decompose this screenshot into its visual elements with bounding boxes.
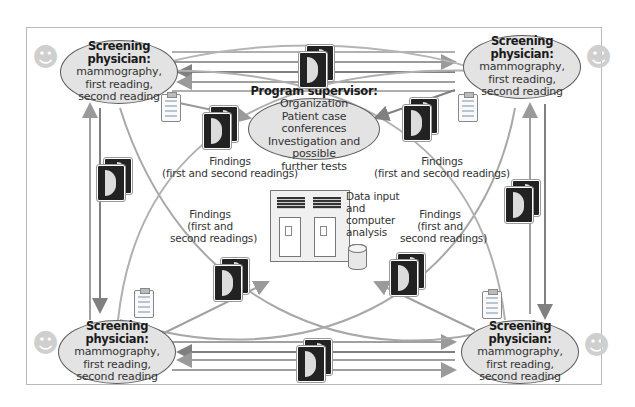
data-line: computer <box>346 214 399 226</box>
screening-physician-top-right: Screening physician: mammography, first … <box>463 35 581 99</box>
clipboard-icon <box>458 94 478 122</box>
findings-line: (first and second readings) <box>160 167 300 179</box>
physician-line: second reading <box>78 91 160 104</box>
supervisor-line: Organization <box>280 98 348 111</box>
woman-profile-icon: ☻ <box>32 328 56 358</box>
findings-label-upper-left: Findings (first and second readings) <box>160 155 300 179</box>
program-supervisor: Program supervisor: Organization Patient… <box>248 98 380 160</box>
mammogram-film-icon <box>299 52 329 90</box>
data-line: Data input <box>346 190 399 202</box>
physician-line: mammography, <box>76 66 161 79</box>
physician-line: mammography, <box>74 346 159 359</box>
supervisor-line: Patient case conferences <box>249 111 379 136</box>
screening-physician-bottom-right: Screening physician: mammography, first … <box>461 320 579 384</box>
data-line: and <box>346 202 399 214</box>
mammogram-film-icon <box>390 260 420 298</box>
mammogram-film-icon <box>214 265 244 303</box>
screening-physician-bottom-left: Screening physician: mammography, first … <box>58 320 176 384</box>
physician-title: Screening physician: <box>61 40 177 66</box>
findings-line: second readings) <box>400 232 480 244</box>
woman-profile-icon: ☻ <box>32 42 56 72</box>
mammogram-film-icon <box>505 187 535 225</box>
physician-line: second reading <box>76 371 158 384</box>
mammogram-film-icon <box>403 105 433 143</box>
physician-title: Screening physician: <box>464 35 580 61</box>
clipboard-icon <box>134 290 154 318</box>
findings-line: second readings) <box>170 232 250 244</box>
findings-line: Findings <box>160 155 300 167</box>
database-cylinder-icon <box>348 244 367 270</box>
findings-line: (first and second readings) <box>372 167 512 179</box>
physician-title: Screening physician: <box>462 320 578 346</box>
data-line: analysis <box>346 226 399 238</box>
findings-line: (first and <box>170 220 250 232</box>
mammogram-film-icon <box>203 113 233 151</box>
findings-line: Findings <box>400 208 480 220</box>
data-input-label: Data input and computer analysis <box>346 190 399 238</box>
clipboard-icon <box>161 94 181 122</box>
findings-line: (first and <box>400 220 480 232</box>
physician-title: Screening physician: <box>59 320 175 346</box>
computer-rack-icon <box>270 190 350 262</box>
clipboard-icon <box>482 291 502 319</box>
physician-line: mammography, <box>477 346 562 359</box>
mammogram-film-icon <box>297 346 327 384</box>
findings-label-middle-right: Findings (first and second readings) <box>400 208 480 244</box>
findings-label-upper-right: Findings (first and second readings) <box>372 155 512 179</box>
findings-line: Findings <box>372 155 512 167</box>
physician-line: second reading <box>481 86 563 99</box>
findings-line: Findings <box>170 208 250 220</box>
woman-profile-icon: ☻ <box>585 42 609 72</box>
woman-profile-icon: ☻ <box>583 330 607 360</box>
physician-line: second reading <box>479 371 561 384</box>
findings-label-middle-left: Findings (first and second readings) <box>170 208 250 244</box>
mammogram-film-icon <box>97 165 127 203</box>
physician-line: mammography, <box>479 61 564 74</box>
